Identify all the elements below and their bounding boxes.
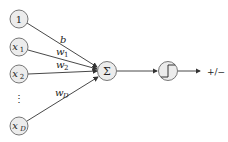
svg-text:Σ: Σ <box>103 65 111 78</box>
input-node-bias: 1 <box>10 10 28 28</box>
svg-text:x: x <box>12 68 18 79</box>
svg-text:D: D <box>62 92 69 100</box>
input-node-x1: x 1 <box>10 38 28 56</box>
ellipsis: ⋮ <box>14 93 24 104</box>
svg-text:1: 1 <box>64 51 68 59</box>
input-node-xD: x D <box>10 117 28 135</box>
edge-x2 <box>28 71 97 74</box>
svg-text:2: 2 <box>20 73 24 81</box>
weight-label-wD: w D <box>55 87 69 100</box>
svg-text:1: 1 <box>20 46 24 54</box>
sum-node: Σ <box>98 62 117 81</box>
svg-text:D: D <box>19 125 26 133</box>
input-node-x2: x 2 <box>10 65 28 83</box>
svg-text:1: 1 <box>16 14 22 25</box>
perceptron-diagram: 1 x 1 x 2 ⋮ x D b w 1 w 2 w D Σ +/− <box>0 0 228 142</box>
output-label: +/− <box>207 67 225 77</box>
weight-label-b: b <box>60 34 66 45</box>
svg-text:x: x <box>12 120 18 131</box>
svg-text:x: x <box>12 41 18 52</box>
svg-text:b: b <box>60 34 66 45</box>
svg-text:2: 2 <box>64 64 68 72</box>
step-activation-node <box>159 62 178 81</box>
